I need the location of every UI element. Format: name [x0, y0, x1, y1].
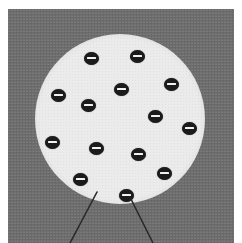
minus-sign-bar	[167, 83, 176, 86]
minus-sign-bar	[151, 115, 160, 118]
minus-sign-bar	[160, 172, 169, 175]
negative-charge-icon	[148, 110, 163, 123]
negative-charge-icon	[45, 136, 60, 149]
minus-sign-bar	[92, 147, 101, 150]
minus-sign-bar	[48, 141, 57, 144]
minus-sign-bar	[117, 88, 126, 91]
minus-sign-bar	[84, 104, 93, 107]
negative-charge-icon	[114, 83, 129, 96]
negative-charge-icon	[131, 148, 146, 161]
negative-charge-icon	[51, 89, 66, 102]
minus-sign-bar	[122, 194, 131, 197]
minus-sign-bar	[54, 94, 63, 97]
figure-root	[0, 0, 242, 243]
negative-charge-icon	[130, 50, 145, 63]
negative-charge-icon	[89, 142, 104, 155]
minus-sign-bar	[87, 57, 96, 60]
minus-sign-bar	[134, 153, 143, 156]
negative-charge-icon	[84, 52, 99, 65]
minus-sign-bar	[185, 127, 194, 130]
negative-charge-icon	[73, 173, 88, 186]
body-circle	[35, 34, 205, 204]
negative-charge-icon	[164, 78, 179, 91]
negative-charge-icon	[157, 167, 172, 180]
negative-charge-icon	[119, 189, 134, 202]
minus-sign-bar	[133, 55, 142, 58]
negative-charge-icon	[81, 99, 96, 112]
minus-sign-bar	[76, 178, 85, 181]
body-circle-texture	[35, 34, 205, 204]
negative-charge-icon	[182, 122, 197, 135]
